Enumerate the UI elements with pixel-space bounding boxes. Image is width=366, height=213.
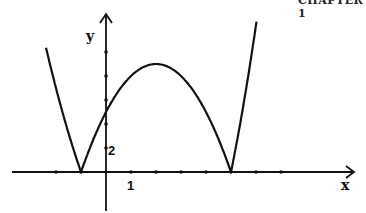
curve	[46, 22, 257, 172]
y-tick	[104, 98, 108, 102]
x-tick	[54, 170, 58, 174]
x-tick	[154, 170, 158, 174]
x-tick	[279, 170, 283, 174]
x-axis-label: x	[341, 177, 350, 193]
y-tick	[104, 74, 108, 78]
y-axis-label: y	[85, 28, 95, 44]
x-tick	[204, 170, 208, 174]
y-tick	[104, 122, 108, 126]
x-tick	[129, 170, 133, 174]
x-tick-label-1: 1	[127, 178, 134, 193]
y-tick-label-2: 2	[108, 143, 115, 158]
x-tick	[179, 170, 183, 174]
function-plot: y x 1 2	[0, 0, 366, 213]
y-tick	[104, 50, 108, 54]
x-tick	[254, 170, 258, 174]
